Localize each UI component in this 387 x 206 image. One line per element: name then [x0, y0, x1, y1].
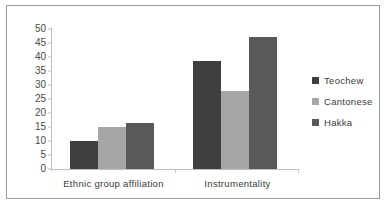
y-axis-tick-label: 40: [35, 52, 52, 62]
y-axis-tick-label: 10: [35, 136, 52, 146]
x-axis-category-separator-tick: [175, 169, 176, 173]
legend-item-hakka: Hakka: [312, 112, 384, 133]
y-axis-tick-label: 50: [35, 24, 52, 34]
y-axis-tick-label: 30: [35, 80, 52, 90]
bar-cantonese-1: [221, 91, 249, 169]
y-axis-tick-label: 0: [40, 164, 52, 174]
bar-hakka-1: [249, 37, 277, 169]
bar-hakka-0: [126, 123, 154, 169]
y-axis-tick-label: 15: [35, 122, 52, 132]
legend-swatch-icon: [312, 77, 319, 84]
bar-teochew-1: [193, 61, 221, 169]
x-axis-category-label-0: Ethnic group affiliation: [52, 178, 175, 189]
plot-area: 05101520253035404550: [52, 29, 299, 169]
bar-teochew-0: [70, 141, 98, 169]
y-axis-tick-label: 20: [35, 108, 52, 118]
legend-label: Teochew: [324, 76, 364, 86]
x-axis-category-label-1: Instrumentality: [176, 178, 299, 189]
legend-item-cantonese: Cantonese: [312, 91, 384, 112]
legend-swatch-icon: [312, 119, 319, 126]
chart-screenshot: 05101520253035404550 Ethnic group affili…: [0, 0, 387, 206]
legend-item-teochew: Teochew: [312, 70, 384, 91]
legend-swatch-icon: [312, 98, 319, 105]
legend-label: Cantonese: [324, 97, 373, 107]
legend: TeochewCantoneseHakka: [312, 70, 384, 133]
y-axis-tick-label: 45: [35, 38, 52, 48]
chart-frame: 05101520253035404550 Ethnic group affili…: [6, 5, 380, 199]
bar-cantonese-0: [98, 127, 126, 169]
y-axis-tick-label: 5: [40, 150, 52, 160]
legend-label: Hakka: [324, 118, 352, 128]
y-axis-tick-label: 35: [35, 66, 52, 76]
y-axis-tick-label: 25: [35, 94, 52, 104]
x-axis-end-tick: [298, 169, 299, 173]
